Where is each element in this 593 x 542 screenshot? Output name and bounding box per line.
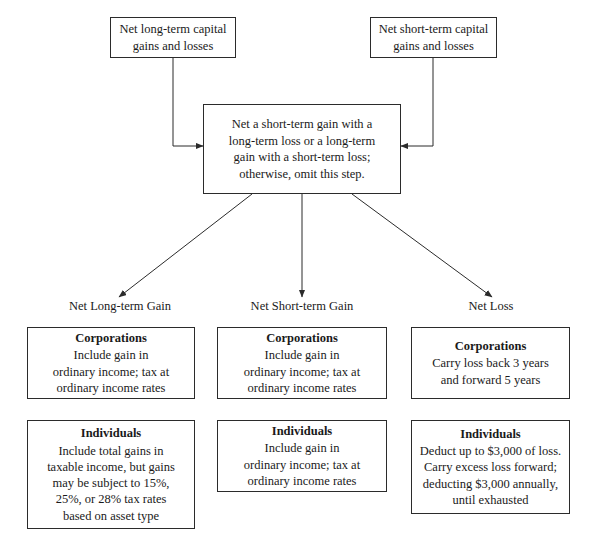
connector-process-to-net-loss [352, 194, 492, 297]
outcome-box-individuals-net-long-term-gain: Individuals Include total gains in taxab… [27, 420, 195, 529]
process-box-netting-step: Net a short-term gain with a long-term l… [203, 104, 401, 194]
branch-label-net-loss: Net Loss [412, 299, 570, 314]
outcome-heading: Individuals [460, 426, 520, 442]
outcome-body: Include gain in ordinary income; tax at … [244, 440, 360, 489]
outcome-heading: Individuals [81, 425, 141, 441]
outcome-body: Deduct up to $3,000 of loss. Carry exces… [420, 443, 561, 508]
branch-label-net-short-term-gain: Net Short-term Gain [217, 299, 387, 314]
outcome-body: Carry loss back 3 years and forward 5 ye… [432, 355, 549, 388]
connector-long-term-to-process [173, 58, 203, 146]
outcome-box-corporations-net-short-term-gain: Corporations Include gain in ordinary in… [217, 327, 387, 399]
outcome-body: Include gain in ordinary income; tax at … [244, 347, 360, 396]
branch-label-net-long-term-gain: Net Long-term Gain [26, 299, 214, 314]
outcome-body: Include total gains in taxable income, b… [47, 443, 175, 524]
source-box-net-long-term: Net long-term capital gains and losses [110, 17, 236, 58]
outcome-heading: Corporations [455, 338, 527, 354]
outcome-box-individuals-net-loss: Individuals Deduct up to $3,000 of loss.… [411, 420, 570, 514]
connector-short-term-to-process [401, 58, 433, 146]
outcome-box-corporations-net-long-term-gain: Corporations Include gain in ordinary in… [27, 327, 195, 399]
flowchart-canvas: Net long-term capital gains and losses N… [0, 0, 593, 542]
outcome-heading: Corporations [266, 330, 338, 346]
connector-process-to-net-long-term-gain [119, 194, 252, 297]
outcome-heading: Individuals [272, 423, 332, 439]
outcome-heading: Corporations [75, 330, 147, 346]
outcome-box-individuals-net-short-term-gain: Individuals Include gain in ordinary inc… [217, 420, 387, 492]
page-top-artifact [86, 0, 316, 7]
outcome-box-corporations-net-loss: Corporations Carry loss back 3 years and… [411, 327, 570, 399]
source-box-net-short-term: Net short-term capital gains and losses [370, 17, 497, 58]
outcome-body: Include gain in ordinary income; tax at … [53, 347, 169, 396]
